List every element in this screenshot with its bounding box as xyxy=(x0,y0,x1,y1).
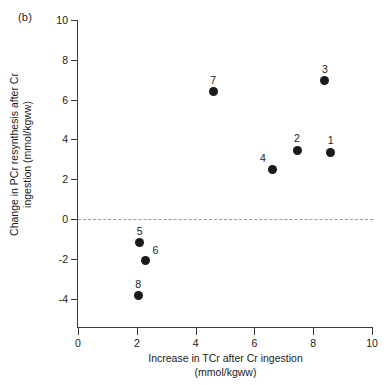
x-tick-label: 4 xyxy=(193,338,199,349)
x-tick-mark xyxy=(196,328,197,335)
data-point-label: 4 xyxy=(260,153,266,164)
y-tick-mark xyxy=(71,179,78,180)
y-axis-line xyxy=(77,20,78,328)
y-axis-title: Change in PCr resynthesis after Cr inges… xyxy=(8,1,42,308)
x-tick-label: 6 xyxy=(251,338,257,349)
zero-reference-line xyxy=(78,219,373,220)
data-point xyxy=(320,76,329,85)
data-point xyxy=(141,256,150,265)
x-tick-label: 10 xyxy=(366,338,378,349)
y-tick-label: -4 xyxy=(59,294,68,305)
data-point xyxy=(209,87,218,96)
x-tick-mark xyxy=(78,328,79,335)
y-axis-title-line1: Change in PCr resynthesis after Cr xyxy=(8,1,21,308)
y-tick-mark xyxy=(71,60,78,61)
data-point-label: 7 xyxy=(210,75,216,86)
scatter-plot-figure: (b) 1086420-2-4 0246810 12345678 Change … xyxy=(0,0,392,385)
data-point xyxy=(326,148,335,157)
y-tick-mark xyxy=(71,100,78,101)
x-tick-mark xyxy=(313,328,314,335)
x-axis-title-line2: (mmol/kgww) xyxy=(78,366,373,380)
y-tick-label: 0 xyxy=(62,214,68,225)
x-axis-line xyxy=(78,327,373,328)
y-axis-title-line2: ingestion (mmol/kgww) xyxy=(21,1,34,308)
y-tick-label: 6 xyxy=(62,95,68,106)
data-point-label: 8 xyxy=(135,279,141,290)
y-tick-mark xyxy=(71,20,78,21)
data-point-label: 3 xyxy=(322,64,328,75)
data-point xyxy=(135,238,144,247)
y-tick-label: 2 xyxy=(62,174,68,185)
data-point xyxy=(293,146,302,155)
data-point-label: 2 xyxy=(294,133,300,144)
x-axis-title: Increase in TCr after Cr ingestion (mmol… xyxy=(78,352,373,379)
y-tick-label: 4 xyxy=(62,134,68,145)
data-point xyxy=(268,165,277,174)
y-tick-label: -2 xyxy=(59,254,68,265)
y-tick-label: 8 xyxy=(62,55,68,66)
data-point-label: 5 xyxy=(137,226,143,237)
data-point xyxy=(134,291,143,300)
x-tick-label: 8 xyxy=(310,338,316,349)
x-tick-mark xyxy=(137,328,138,335)
x-tick-mark xyxy=(254,328,255,335)
data-point-label: 1 xyxy=(328,135,334,146)
data-point-label: 6 xyxy=(153,245,159,256)
y-tick-mark xyxy=(71,219,78,220)
y-tick-label: 10 xyxy=(56,15,68,26)
x-axis-title-line1: Increase in TCr after Cr ingestion xyxy=(78,352,373,366)
x-tick-mark xyxy=(372,328,373,335)
y-tick-mark xyxy=(71,259,78,260)
y-tick-mark xyxy=(71,139,78,140)
y-tick-mark xyxy=(71,299,78,300)
x-tick-label: 2 xyxy=(134,338,140,349)
x-tick-label: 0 xyxy=(75,338,81,349)
